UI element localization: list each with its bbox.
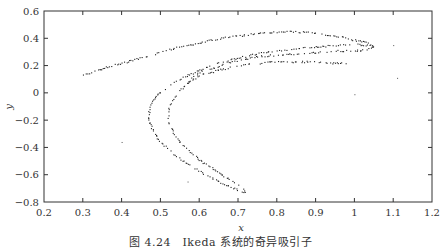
data-point — [216, 179, 217, 180]
data-point — [203, 174, 204, 175]
data-point — [175, 97, 176, 98]
data-point — [260, 32, 261, 33]
data-point — [212, 167, 213, 168]
data-point — [248, 35, 249, 36]
data-point — [372, 47, 373, 48]
data-point — [231, 59, 232, 60]
data-point — [181, 88, 182, 89]
data-point — [231, 187, 232, 188]
data-point — [164, 146, 165, 147]
data-point — [175, 155, 176, 156]
data-point — [187, 83, 188, 84]
data-point — [210, 72, 211, 73]
data-point — [290, 31, 291, 32]
data-point — [184, 161, 185, 162]
data-point — [239, 58, 240, 59]
data-point — [199, 76, 200, 77]
data-point — [318, 52, 319, 53]
data-point — [215, 70, 216, 71]
data-point — [279, 50, 280, 51]
data-point — [351, 39, 352, 40]
data-point — [313, 52, 314, 53]
data-point — [205, 42, 206, 43]
data-point — [218, 70, 219, 71]
data-point — [361, 41, 362, 42]
data-point — [229, 37, 230, 38]
data-point — [173, 130, 174, 131]
data-point — [273, 31, 274, 32]
data-point — [232, 181, 233, 182]
data-point — [327, 63, 328, 64]
data-point — [193, 74, 194, 75]
data-point — [256, 54, 257, 55]
data-point — [317, 47, 318, 48]
data-point — [155, 97, 156, 98]
data-point — [241, 65, 242, 66]
data-point — [259, 33, 260, 34]
data-point — [268, 56, 269, 57]
data-point — [188, 83, 189, 84]
data-point — [190, 152, 191, 153]
data-point — [188, 81, 189, 82]
data-point — [201, 171, 202, 172]
data-point — [195, 78, 196, 79]
data-point — [128, 62, 129, 63]
data-point — [304, 53, 305, 54]
data-point — [103, 68, 104, 69]
data-point — [336, 51, 337, 52]
data-point — [346, 50, 347, 51]
data-point — [168, 108, 169, 109]
data-point — [198, 43, 199, 44]
data-point — [166, 50, 167, 51]
data-point — [149, 112, 150, 113]
data-point — [195, 43, 196, 44]
data-point — [83, 75, 84, 76]
data-point — [304, 47, 305, 48]
data-point — [228, 37, 229, 38]
data-point — [222, 183, 223, 184]
data-point — [362, 45, 363, 46]
data-point — [334, 36, 335, 37]
data-point — [210, 176, 211, 177]
data-point — [325, 35, 326, 36]
data-point — [297, 54, 298, 55]
data-point — [292, 62, 293, 63]
data-point — [314, 53, 315, 54]
data-point — [168, 118, 169, 119]
data-point — [169, 109, 170, 110]
data-point — [115, 64, 116, 65]
data-point — [278, 61, 279, 62]
data-point — [309, 47, 310, 48]
data-point — [367, 49, 368, 50]
data-point — [222, 65, 223, 66]
data-point — [314, 61, 315, 62]
data-point — [271, 32, 272, 33]
data-point — [265, 56, 266, 57]
data-point — [159, 92, 160, 93]
y-tick-label: −0.2 — [15, 115, 39, 126]
data-point — [212, 177, 213, 178]
data-point — [321, 34, 322, 35]
data-point — [242, 56, 243, 57]
data-point — [197, 70, 198, 71]
data-point — [186, 163, 187, 164]
data-point — [148, 111, 149, 112]
data-point — [352, 40, 353, 41]
x-tick-label: 0.5 — [152, 207, 168, 218]
data-point — [333, 45, 334, 46]
data-point — [202, 42, 203, 43]
data-point — [104, 68, 105, 69]
data-point — [179, 90, 180, 91]
data-point — [188, 182, 189, 183]
data-point — [330, 62, 331, 63]
data-point — [215, 40, 216, 41]
data-point — [368, 43, 369, 44]
data-point — [169, 115, 170, 116]
data-point — [197, 168, 198, 169]
data-point — [270, 33, 271, 34]
data-point — [225, 37, 226, 38]
data-point — [189, 150, 190, 151]
data-point — [243, 64, 244, 65]
data-point — [148, 120, 149, 121]
data-point — [162, 143, 163, 144]
